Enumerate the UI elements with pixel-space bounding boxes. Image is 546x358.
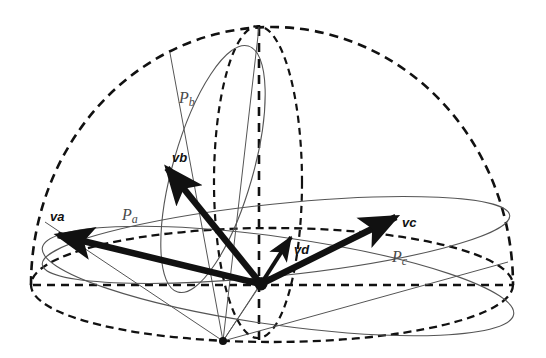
vector-label-sub-vc: c (409, 215, 417, 230)
guide-lines-group (45, 27, 508, 341)
axes-group (33, 27, 513, 341)
plane-label-base-Pb: P (178, 89, 189, 106)
plane-ellipses-group (36, 35, 520, 358)
vector-label-vc: vc (402, 215, 417, 230)
vector-label-vd: vd (294, 242, 310, 257)
plane-label-base-Pc: P (391, 248, 402, 265)
plane-label-Pb: Pb (178, 89, 195, 109)
vector-label-vb: vb (172, 150, 187, 165)
plane-ellipse-pa (39, 180, 514, 301)
plane-label-base-Pa: P (121, 206, 132, 223)
guide-bottom-to-pb-top (170, 53, 223, 341)
plane-label-Pc: Pc (391, 248, 408, 268)
vector-label-sub-va: a (57, 209, 64, 224)
vector-labels-group: vavbvcvd (50, 150, 417, 257)
plane-label-sub-Pa: a (132, 212, 138, 226)
vector-label-va: va (50, 209, 64, 224)
plane-label-Pa: Pa (121, 206, 138, 226)
figure-canvas: vavbvcvd PaPbPc (0, 0, 546, 358)
plane-ellipse-pc (36, 204, 520, 357)
bottom-node (219, 337, 227, 345)
vector-label-sub-vd: d (301, 242, 310, 257)
hemisphere-diagram: vavbvcvd PaPbPc (0, 0, 546, 358)
origin-node (255, 278, 268, 291)
vector-label-sub-vb: b (179, 150, 187, 165)
plane-label-sub-Pc: c (402, 254, 408, 268)
plane-label-sub-Pb: b (189, 95, 195, 109)
vectors-group (58, 168, 396, 284)
